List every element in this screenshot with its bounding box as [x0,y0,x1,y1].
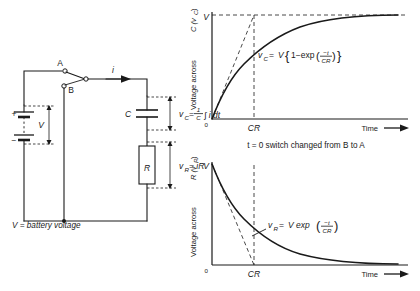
chart2-y-tick-zero: 0 [205,267,209,274]
figure-canvas: A B i + − V C R v C = 1 C ∫ i dt v R = i… [0,0,420,291]
chart1-time-arrow [384,125,409,132]
capacitor-component-label: C [125,109,132,119]
capacitor-voltage-chart [212,12,409,132]
chart1-eq-paren-close: ) [332,50,336,62]
chart1-eq-lhs: v [258,50,263,60]
chart1-y-tick-v: V [203,12,210,22]
chart2-y-tick-v: V [203,161,210,171]
chart1-y-axis-title-group: Voltage across [189,60,198,110]
chart2-eq-paren-open: ( [316,218,321,233]
battery-symbol [14,105,34,221]
chart2-x-tick-cr: CR [248,269,260,279]
chart1-y-axis-var: C (v [189,17,198,32]
chart1-eq-body: 1−exp [291,50,315,60]
chart1-eq-frac-den: CR [322,57,331,64]
chart2-annotation-equation: v R = V exp ( −t CR ) [252,218,338,236]
chart2-y-axis-title-group: Voltage across [189,207,198,257]
chart1-y-tick-zero: 0 [205,121,209,128]
resistor-symbol [139,146,155,221]
chart2-eq-frac-num: −t [324,219,330,226]
chart1-y-axis-var-group: C (v C ) [189,8,199,32]
chart1-x-axis-title: Time [361,124,378,133]
resistor-equation-lhs: v [179,161,184,171]
chart2-y-axis-var: R (v [189,165,198,180]
chart1-annotation-equation: v C = V { 1−exp ( −t CR ) } [258,48,342,64]
chart2-eq-lhs: v [268,220,273,230]
current-label-i: i [112,65,115,75]
chart2-y-axis-title: Voltage across [189,207,198,257]
switch-label-a: A [57,58,63,68]
battery-minus-label: − [12,135,17,145]
capacitor-equation-lhs: v [179,109,184,119]
chart1-eq-lhs-sub: C [264,55,269,62]
chart1-eq-paren-open: ( [316,50,320,62]
chart2-eq-frac-den: CR [323,227,332,234]
chart2-eq-paren-close: ) [334,218,338,233]
chart1-y-axis-var-close: ) [189,8,198,11]
chart1-eq-frac-num: −t [323,49,329,56]
circuit-diagram [14,69,176,223]
chart1-eq-brace-open: { [285,48,290,63]
chart2-eq-equals: = [279,220,284,230]
middle-caption: t = 0 switch changed from B to A [247,141,365,150]
chart2-time-arrow [384,271,409,278]
current-arrow-i [106,75,131,82]
chart1-x-tick-cr: CR [248,123,260,133]
resistor-voltage-chart [212,162,409,278]
resistor-component-label: R [144,163,150,173]
wire-switch-to-capacitor [88,79,147,96]
chart2-curve-vr [212,164,398,264]
figure-svg: A B i + − V C R v C = 1 C ∫ i dt v R = i… [0,0,420,291]
chart2-y-axis-var-group: R (v R ) [189,156,199,180]
chart2-x-axis-title: Time [361,270,378,279]
chart1-eq-brace-close: } [337,48,342,63]
switch-blade [66,72,85,79]
chart1-eq-equals: = [269,50,274,60]
chart2-y-axis-var-close: ) [189,156,198,159]
capacitor-symbol [136,96,158,146]
chart2-eq-amplitude: V exp [288,220,310,230]
wire-battery-to-switch-a [24,71,62,105]
capacitor-voltage-dimension [147,96,176,131]
chart1-y-axis-title: Voltage across [189,60,198,110]
circuit-caption: V = battery voltage [12,221,81,230]
battery-voltage-label: V [38,120,45,130]
chart2-eq-lhs-sub: R [274,225,279,232]
battery-plus-label: + [12,109,17,119]
capacitor-equation-frac-den: C [196,114,201,121]
chart1-curve-vc [212,15,398,119]
chart1-eq-amplitude: V [278,50,285,60]
switch-label-b: B [68,85,74,95]
